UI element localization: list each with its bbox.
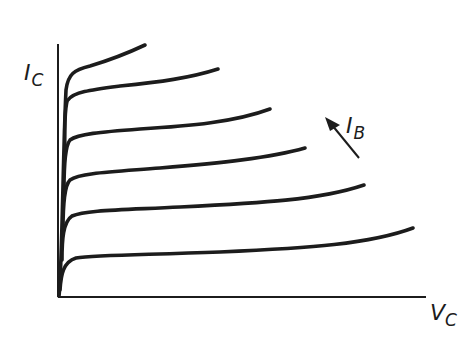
y-axis-label: IC	[24, 60, 44, 90]
ib-arrow-head-icon	[325, 117, 340, 131]
ib-arrow-label: IB	[346, 113, 365, 143]
x-axis-label: VC	[430, 300, 457, 330]
curve-ib-2	[65, 69, 218, 150]
curve-ib-6	[60, 228, 413, 290]
transistor-characteristics-diagram: IC VC IB	[0, 0, 472, 338]
curve-ib-4	[63, 148, 305, 230]
curve-ib-3	[64, 109, 270, 190]
diagram-canvas: IC VC IB	[0, 0, 472, 338]
curve-ib-5	[62, 185, 364, 260]
